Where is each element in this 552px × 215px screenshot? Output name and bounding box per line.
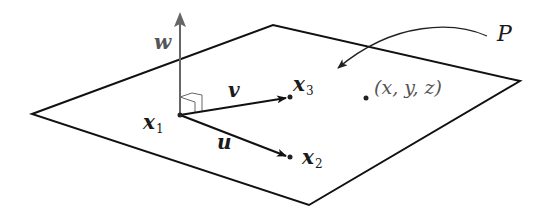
plane-p [32,25,520,205]
label-x1-main: x [143,110,155,134]
label-x2: x2 [302,147,323,170]
label-w: w [154,32,171,52]
label-x1-sub: 1 [156,122,164,136]
label-x1: x1 [143,112,164,135]
label-u: u [217,132,232,152]
label-v: v [228,80,240,100]
label-x2-sub: 2 [315,157,323,171]
label-x3-sub: 3 [306,84,314,98]
point-x3 [288,95,293,100]
right-angle-marker [180,93,202,113]
plane-label-pointer [338,27,487,68]
point-x1 [178,113,183,118]
label-x3-main: x [293,72,305,96]
label-plane-p: P [497,23,512,45]
point-xyz [364,96,369,101]
label-x3: x3 [293,74,314,97]
label-xyz: (x, y, z) [374,78,442,97]
plane-diagram [0,0,552,215]
vector-u [180,115,286,156]
label-x2-main: x [302,145,314,169]
point-x2 [288,155,293,160]
